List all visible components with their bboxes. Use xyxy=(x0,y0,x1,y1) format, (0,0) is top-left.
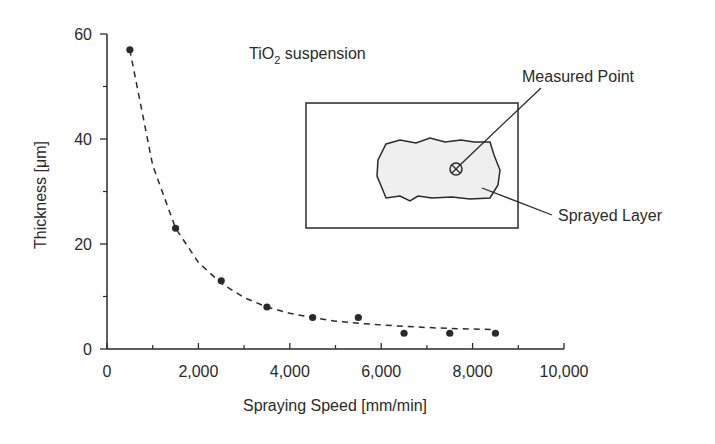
suspension-suffix: suspension xyxy=(280,45,365,62)
x-tick-label: 8,000 xyxy=(453,363,493,380)
data-point xyxy=(492,330,499,337)
x-tick-label: 2,000 xyxy=(178,363,218,380)
y-tick-label: 40 xyxy=(74,131,92,148)
axes: 02,0004,0006,0008,00010,0000204060 xyxy=(74,26,588,380)
suspension-label: TiO2 suspension xyxy=(249,45,366,66)
data-point xyxy=(400,330,407,337)
data-point xyxy=(309,314,316,321)
y-tick-label: 0 xyxy=(83,341,92,358)
data-point xyxy=(355,314,362,321)
sprayed-layer-label: Sprayed Layer xyxy=(558,207,663,224)
data-point xyxy=(172,225,179,232)
measured-point-label: Measured Point xyxy=(522,68,635,85)
x-tick-label: 4,000 xyxy=(270,363,310,380)
inset-diagram xyxy=(306,88,552,228)
chart-figure: 02,0004,0006,0008,00010,0000204060 Spray… xyxy=(0,0,715,444)
data-point xyxy=(263,303,270,310)
y-axis-title: Thickness [μm] xyxy=(32,141,49,249)
suspension-prefix: TiO xyxy=(249,45,274,62)
sprayed-layer-leader xyxy=(482,188,552,215)
data-point xyxy=(126,46,133,53)
sprayed-layer-blob xyxy=(377,138,500,201)
measured-point-leader xyxy=(460,88,541,165)
data-point xyxy=(218,277,225,284)
x-tick-label: 10,000 xyxy=(540,363,589,380)
x-tick-label: 6,000 xyxy=(361,363,401,380)
y-tick-label: 20 xyxy=(74,236,92,253)
y-tick-label: 60 xyxy=(74,26,92,43)
data-point xyxy=(446,330,453,337)
x-tick-label: 0 xyxy=(103,363,112,380)
x-axis-title: Spraying Speed [mm/min] xyxy=(243,397,427,414)
